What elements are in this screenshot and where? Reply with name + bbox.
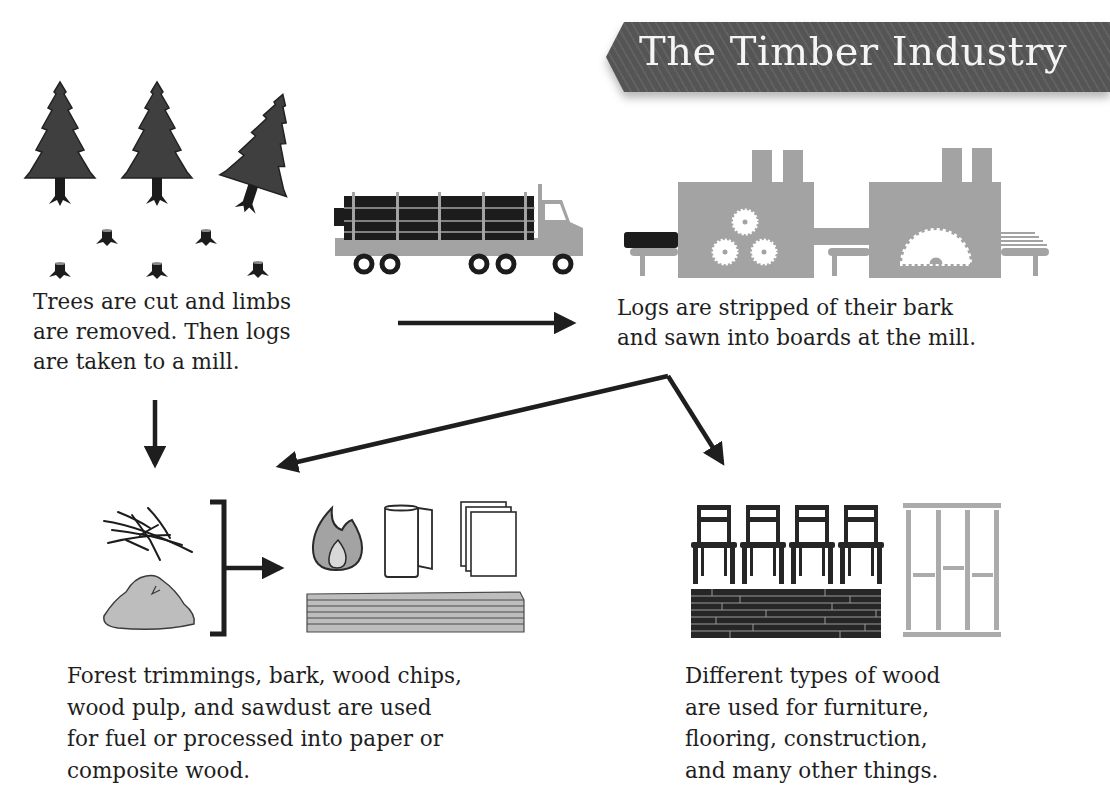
- caption-line: and sawn into boards at the mill.: [617, 323, 976, 353]
- paper-sheets-icon: [461, 502, 516, 576]
- arrow-elbow-left-icon: [280, 376, 668, 466]
- caption-line: are used for furniture,: [685, 692, 940, 724]
- page-title: The Timber Industry: [639, 28, 1067, 74]
- trees-illustration: [0, 0, 330, 290]
- tree-stump-icon: [49, 229, 269, 279]
- log-truck-icon: [330, 180, 590, 280]
- chair-icon: [691, 505, 737, 584]
- paper-towel-roll-icon: [385, 506, 432, 578]
- wall-framing-icon: [903, 503, 1001, 637]
- caption-mill: Logs are stripped of their bark and sawn…: [617, 293, 976, 353]
- falling-pine-tree-icon: [211, 84, 316, 224]
- caption-line: wood pulp, and sawdust are used: [67, 692, 462, 724]
- caption-line: Trees are cut and limbs: [33, 287, 291, 317]
- caption-line: and many other things.: [685, 755, 940, 787]
- chair-icon: [740, 505, 786, 584]
- byproducts-illustration: [95, 495, 535, 640]
- title-banner: The Timber Industry: [606, 22, 1110, 92]
- caption-byproducts: Forest trimmings, bark, wood chips, wood…: [67, 660, 462, 786]
- chair-icon: [789, 505, 835, 584]
- flooring-icon: [691, 589, 881, 638]
- caption-line: Logs are stripped of their bark: [617, 293, 976, 323]
- caption-line: flooring, construction,: [685, 723, 940, 755]
- chair-icon: [838, 505, 884, 584]
- caption-line: are removed. Then logs: [33, 317, 291, 347]
- caption-lumber-uses: Different types of wood are used for fur…: [685, 660, 940, 786]
- pine-tree-icon: [25, 82, 95, 206]
- pine-tree-icon: [122, 82, 192, 206]
- composite-board-icon: [307, 592, 524, 632]
- sawmill-icon: [620, 140, 1060, 280]
- lumber-uses-illustration: [685, 495, 1010, 645]
- fire-icon: [313, 508, 362, 570]
- arrow-elbow-right-icon: [668, 376, 722, 462]
- caption-line: Forest trimmings, bark, wood chips,: [67, 660, 462, 692]
- caption-line: composite wood.: [67, 755, 462, 787]
- caption-line: Different types of wood: [685, 660, 940, 692]
- caption-line: are taken to a mill.: [33, 347, 291, 377]
- sawdust-pile-icon: [104, 576, 195, 630]
- caption-harvest: Trees are cut and limbs are removed. The…: [33, 287, 291, 377]
- caption-line: for fuel or processed into paper or: [67, 723, 462, 755]
- branches-icon: [104, 508, 192, 560]
